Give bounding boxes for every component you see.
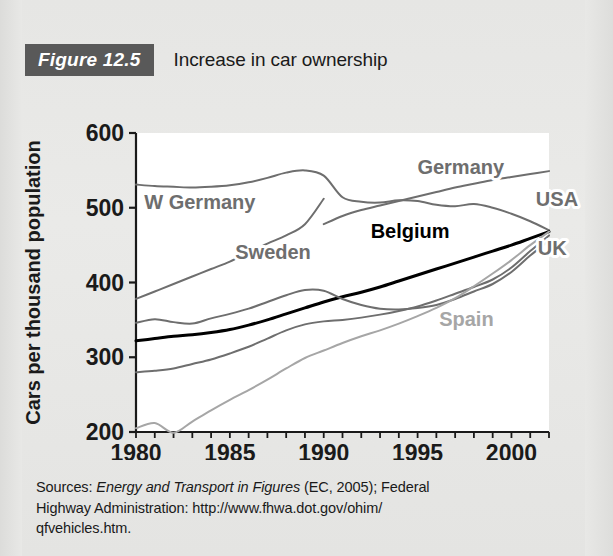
sources-suffix: (EC, 2005); Federal [300,479,429,495]
sources-title-italic: Energy and Transport in Figures [96,479,300,495]
x-tick-1985: 1985 [204,440,255,460]
y-tick-600: 600 [86,120,124,146]
series-label-usa: USA [536,188,578,210]
chart-container: 200300400500600 19801985199019952000 Car… [0,100,613,460]
series-label-uk: UK [538,237,567,259]
sources-prefix: Sources: [36,479,96,495]
y-tick-400: 400 [86,270,124,296]
sources-line-3: qfvehicles.htm. [36,518,581,539]
figure-sources: Sources: Energy and Transport in Figures… [36,477,581,539]
series-label-germany: Germany [417,156,505,178]
figure-header: Figure 12.5 Increase in car ownership [25,44,388,76]
series-label-spain: Spain [439,308,493,330]
y-axis-label: Cars per thousand population [22,140,44,424]
y-tick-500: 500 [86,195,124,221]
series-label-w-germany: W Germany [144,191,256,213]
y-tick-300: 300 [86,344,124,370]
line-chart: 200300400500600 19801985199019952000 Car… [0,100,613,460]
series-label-sweden: Sweden [235,241,311,263]
y-axis-title: Cars per thousand population [22,140,44,424]
figure-title: Increase in car ownership [174,49,388,71]
sources-line-2: Highway Administration: http://www.fhwa.… [36,498,581,519]
sources-line-1: Sources: Energy and Transport in Figures… [36,477,581,498]
x-tick-1990: 1990 [298,440,349,460]
figure-number-badge: Figure 12.5 [25,44,154,76]
x-tick-2000: 2000 [486,440,537,460]
x-tick-1980: 1980 [110,440,161,460]
series-label-belgium: Belgium [371,220,450,242]
figure-card: Figure 12.5 Increase in car ownership 20… [0,0,613,556]
y-axis-tick-labels: 200300400500600 [86,120,124,445]
x-axis-tick-labels: 19801985199019952000 [110,440,537,460]
x-tick-1995: 1995 [392,440,443,460]
